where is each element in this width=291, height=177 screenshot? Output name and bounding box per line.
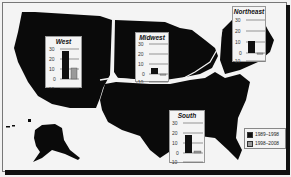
legend-swatch-gray <box>247 141 253 147</box>
svg-text:0: 0 <box>53 76 56 82</box>
svg-text:20: 20 <box>49 56 55 62</box>
bar-northeast-1989-1998 <box>248 41 255 53</box>
inset-south-chart: 3020 100 -10 <box>170 111 206 164</box>
svg-text:20: 20 <box>172 130 178 136</box>
inset-midwest-chart: 3020 100 -10 <box>136 33 170 83</box>
hawaii-2 <box>12 125 15 127</box>
inset-northeast-chart: 3020 100 -10 <box>233 7 267 63</box>
legend-item-1989-1998: 1989–1998 <box>247 131 279 138</box>
svg-text:10: 10 <box>172 140 178 146</box>
legend-label: 1989–1998 <box>255 132 279 137</box>
svg-text:10: 10 <box>49 66 55 72</box>
bar-south-1989-1998 <box>185 135 192 153</box>
svg-text:-10: -10 <box>233 58 240 63</box>
svg-text:0: 0 <box>176 150 179 156</box>
inset-northeast: Northeast 3020 100 -10 <box>232 6 266 62</box>
hawaii-1 <box>6 126 10 128</box>
svg-text:-10: -10 <box>136 79 143 83</box>
svg-text:10: 10 <box>235 39 241 45</box>
svg-text:30: 30 <box>49 46 55 52</box>
bar-midwest-1989-1998 <box>151 68 158 74</box>
svg-text:20: 20 <box>235 28 241 34</box>
svg-text:20: 20 <box>138 51 144 57</box>
legend-item-1998-2008: 1998–2008 <box>247 140 279 147</box>
hawaii-3 <box>28 119 31 122</box>
svg-text:0: 0 <box>142 71 145 77</box>
bar-south-1998-2008 <box>194 151 201 153</box>
inset-midwest: Midwest 3020 100 -10 <box>135 32 169 82</box>
legend-swatch-black <box>247 132 253 138</box>
legend: 1989–1998 1998–2008 <box>244 128 286 149</box>
svg-text:0: 0 <box>239 50 242 56</box>
bar-northeast-1998-2008 <box>257 53 263 54</box>
inset-west-chart: 3020 100 -10 <box>46 37 83 89</box>
svg-text:-10: -10 <box>170 159 177 164</box>
alaska <box>33 124 80 162</box>
legend-label: 1998–2008 <box>255 141 279 146</box>
bar-midwest-1998-2008 <box>160 74 166 75</box>
svg-text:30: 30 <box>235 17 241 23</box>
svg-text:10: 10 <box>138 61 144 67</box>
bar-west-1989-1998 <box>62 51 69 79</box>
bar-west-1998-2008 <box>71 68 77 79</box>
inset-south: South 3020 100 -10 <box>169 110 205 163</box>
svg-text:30: 30 <box>138 41 144 47</box>
svg-text:30: 30 <box>172 120 178 126</box>
inset-west: West 3020 100 -10 <box>45 36 82 88</box>
svg-text:-10: -10 <box>47 86 54 89</box>
